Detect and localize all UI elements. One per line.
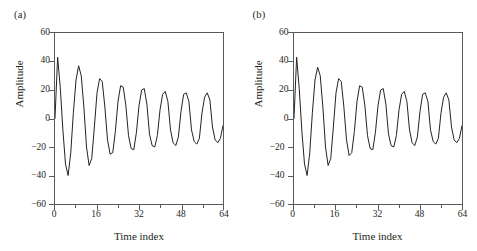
xaxis-title-b: Time index: [293, 230, 463, 242]
yaxis-title-a: Amplitude: [13, 39, 25, 129]
xaxis-title-a: Time index: [54, 230, 224, 242]
xtick-a-48: 48: [168, 210, 194, 220]
waveform-svg-b: [294, 33, 462, 204]
ytick-b-0: 0: [261, 114, 289, 124]
xtick-a-16: 16: [83, 210, 109, 220]
xtickmark-a: [182, 205, 183, 210]
panel-a-tag: (a): [14, 9, 26, 20]
xtickmark-minor-a: [118, 205, 119, 208]
xtick-b-16: 16: [322, 210, 348, 220]
ytick-a-20: 20: [22, 85, 50, 95]
xtickmark-b: [420, 205, 421, 210]
xtick-a-32: 32: [126, 210, 152, 220]
xtickmark-b: [462, 205, 463, 210]
ytick-a-40: 40: [22, 56, 50, 66]
xtickmark-minor-b: [356, 205, 357, 208]
xtick-a-0: 0: [41, 210, 67, 220]
xtickmark-minor-a: [203, 205, 204, 208]
panel-a: (a) 60 40 20 0 −20 −40 −60 0 16 32 48 64: [0, 0, 239, 251]
plot-area-a: [54, 32, 224, 205]
ytick-b-neg60: −60: [257, 200, 285, 210]
ytick-a-60: 60: [22, 28, 50, 38]
panel-b-tag: (b): [253, 9, 266, 20]
xtickmark-a: [97, 205, 98, 210]
xtickmark-b: [293, 205, 294, 210]
ytick-b-60: 60: [261, 28, 289, 38]
ytick-b-40: 40: [261, 56, 289, 66]
xtickmark-minor-b: [314, 205, 315, 208]
ytick-a-neg40: −40: [18, 171, 46, 181]
ytick-b-neg20: −20: [257, 143, 285, 153]
xtick-a-64: 64: [211, 210, 237, 220]
panel-b: (b) 60 40 20 0 −20 −40 −60 0 16 32 48 64: [239, 0, 477, 251]
xtickmark-a: [223, 205, 224, 210]
xtickmark-minor-a: [75, 205, 76, 208]
xtickmark-a: [54, 205, 55, 210]
xtickmark-minor-b: [441, 205, 442, 208]
xtick-b-0: 0: [280, 210, 306, 220]
xtick-b-64: 64: [450, 210, 476, 220]
ytick-a-neg20: −20: [18, 143, 46, 153]
xtickmark-b: [378, 205, 379, 210]
xtick-b-48: 48: [407, 210, 433, 220]
plot-area-b: [293, 32, 463, 205]
xtickmark-minor-b: [399, 205, 400, 208]
xtickmark-minor-a: [160, 205, 161, 208]
xtickmark-a: [139, 205, 140, 210]
ytick-b-20: 20: [261, 85, 289, 95]
xtickmark-b: [335, 205, 336, 210]
ytick-a-neg60: −60: [18, 200, 46, 210]
ytick-a-0: 0: [22, 114, 50, 124]
yaxis-title-b: Amplitude: [252, 39, 264, 129]
ytick-b-neg40: −40: [257, 171, 285, 181]
figure-two-panel-waveforms: (a) 60 40 20 0 −20 −40 −60 0 16 32 48 64: [0, 0, 477, 251]
waveform-svg-a: [55, 33, 223, 204]
xtick-b-32: 32: [365, 210, 391, 220]
